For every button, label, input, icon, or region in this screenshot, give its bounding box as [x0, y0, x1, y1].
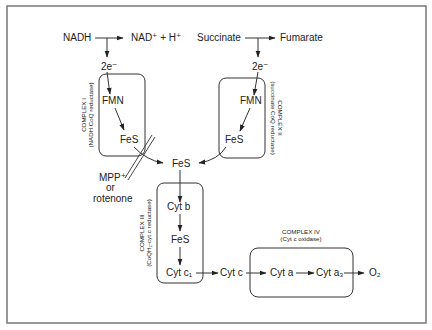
- succinate-label: Succinate: [197, 32, 241, 43]
- nadh-label: NADH: [63, 32, 91, 43]
- complex-4-name: COMPLEX IV: [282, 228, 321, 235]
- complex-2-name: COMPLEX II: [277, 100, 284, 136]
- oxygen-label: O₂: [369, 267, 381, 278]
- complex-3-cyt-c1: Cyt c₁: [166, 267, 193, 278]
- complex-1-fmn: FMN: [102, 95, 124, 106]
- complex-2-fmn: FMN: [240, 95, 262, 106]
- junction-fes-label: FeS: [172, 158, 191, 169]
- complex-2-in-arrow: [254, 72, 258, 95]
- electron-transport-chain-diagram: NADH NAD⁺ + H⁺ 2e⁻ Succinate Fumarate 2e…: [0, 0, 432, 330]
- complex-3-cyt-b: Cyt b: [167, 201, 191, 212]
- inhibitor-rotenone: rotenone: [93, 193, 133, 204]
- complex-4-cyt-a: Cyt a: [270, 267, 294, 278]
- complex-1-fmn-fes-arrow: [115, 108, 124, 130]
- complex-2-subtitle: (succinate CoQ reductase): [270, 81, 277, 155]
- complex-4: COMPLEX IV (Cyt c oxidase) Cyt a Cyt a₃: [250, 228, 353, 297]
- complex-3-name: COMPLEX III: [138, 214, 145, 251]
- complex-2-fes: FeS: [225, 134, 244, 145]
- cyt-c-label: Cyt c: [220, 267, 243, 278]
- complex-1-subtitle: (NADH CoQ reductase): [87, 83, 94, 148]
- complex-3: COMPLEX III (CoQH₂-cyt c reductase) Cyt …: [138, 170, 203, 283]
- nad-products-label: NAD⁺ + H⁺: [131, 32, 181, 43]
- complex-1-in-arrow: [107, 72, 110, 94]
- complex-1: COMPLEX I (NADH CoQ reductase) FMN FeS: [80, 72, 145, 156]
- complex-2: COMPLEX II (succinate CoQ reductase) FMN…: [219, 72, 284, 158]
- complex-2-fmn-fes-arrow: [240, 108, 250, 131]
- complex-3-fes: FeS: [171, 234, 190, 245]
- complex-4-cyt-a3: Cyt a₃: [316, 267, 343, 278]
- complex-4-subtitle: (Cyt c oxidase): [280, 235, 321, 242]
- fumarate-label: Fumarate: [280, 32, 323, 43]
- figure-frame: [7, 6, 426, 323]
- electrons-label-2: 2e⁻: [252, 61, 268, 72]
- complex-1-fes: FeS: [120, 134, 139, 145]
- complex-1-to-fes-arrow: [134, 147, 163, 163]
- complex-1-name: COMPLEX I: [80, 98, 87, 132]
- electrons-label-1: 2e⁻: [101, 61, 117, 72]
- complex-2-to-fes-arrow: [199, 147, 226, 163]
- complex-2-box: [219, 78, 265, 158]
- complex-3-subtitle: (CoQH₂-cyt c reductase): [145, 199, 152, 266]
- inhibitor-or: or: [106, 182, 116, 193]
